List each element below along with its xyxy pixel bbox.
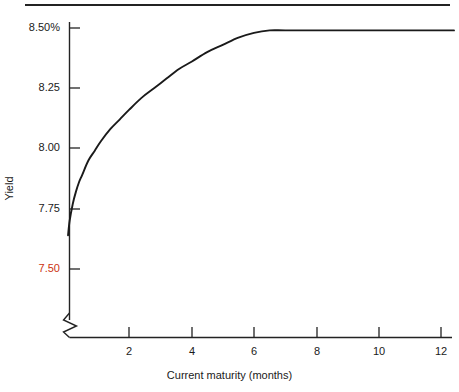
- x-axis-title: Current maturity (months): [0, 370, 459, 381]
- plot-area: [0, 0, 459, 392]
- x-tick-label-1: 4: [180, 346, 204, 357]
- y-tick-label-1: 8.25: [8, 82, 60, 93]
- x-tick-label-5: 12: [429, 346, 453, 357]
- x-tick-label-4: 10: [367, 346, 391, 357]
- y-tick-label-0: 8.50%: [8, 22, 60, 33]
- x-tick-marks: [129, 327, 441, 338]
- x-tick-label-3: 8: [305, 346, 329, 357]
- x-tick-label-2: 6: [242, 346, 266, 357]
- yield-curve-figure: 8.50% 8.25 8.00 7.75 7.50 2 4 6 8 10 12 …: [0, 0, 459, 392]
- x-tick-label-0: 2: [117, 346, 141, 357]
- y-tick-label-4: 7.50: [8, 263, 60, 274]
- y-tick-label-3: 7.75: [8, 203, 60, 214]
- y-axis-title: Yield: [4, 167, 15, 211]
- yield-curve-line: [68, 30, 454, 235]
- y-tick-label-2: 8.00: [8, 142, 60, 153]
- y-tick-marks: [70, 28, 81, 269]
